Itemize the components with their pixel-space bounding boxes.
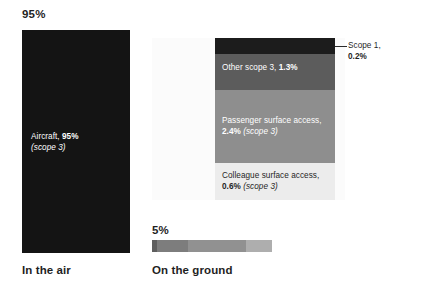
on-the-ground-total-bar [152,240,272,252]
in-the-air-bar: Aircraft, 95% (scope 3) [22,30,130,253]
aircraft-segment-label: Aircraft, 95% (scope 3) [31,132,127,153]
aircraft-label-lead: Aircraft, [31,132,62,141]
in-the-air-percent-label: 95% [22,8,46,20]
passenger-label-value: 2.4% [222,127,241,136]
total-bar-segment-colleague [246,240,272,252]
scope-1-callout-leader-line [335,46,347,47]
aircraft-label-value: 95% [62,132,79,141]
total-bar-segment-passenger [188,240,246,252]
emissions-split-chart: 95% Aircraft, 95% (scope 3) In the air O… [0,0,424,288]
aircraft-label-scope: (scope 3) [31,143,66,152]
colleague-label-lead: Colleague surface access, [222,171,319,180]
colleague-label-value: 0.6% [222,182,241,191]
passenger-label-scope: (scope 3) [241,127,278,136]
on-the-ground-percent-label: 5% [152,224,169,236]
axis-label-in-the-air: In the air [22,264,71,276]
other-scope3-label-value: 1.3% [279,63,298,72]
scope-1-callout-label: Scope 1, 0.2% [348,40,420,62]
other-scope3-label-lead: Other scope 3, [222,63,279,72]
segment-other-scope-3: Other scope 3, 1.3% [215,54,335,90]
segment-scope-1 [215,38,335,54]
axis-label-on-the-ground: On the ground [152,264,233,276]
colleague-label-scope: (scope 3) [241,182,278,191]
total-bar-segment-other-scope-3 [157,240,188,252]
scope-1-callout-name: Scope 1, [348,41,381,50]
passenger-label-lead: Passenger surface access, [222,116,322,125]
scope-1-callout-value: 0.2% [348,52,367,61]
segment-colleague-surface-access: Colleague surface access, 0.6% (scope 3) [215,163,335,200]
segment-passenger-surface-access: Passenger surface access, 2.4% (scope 3) [215,90,335,163]
on-the-ground-stacked-bar: Other scope 3, 1.3% Passenger surface ac… [215,38,335,200]
